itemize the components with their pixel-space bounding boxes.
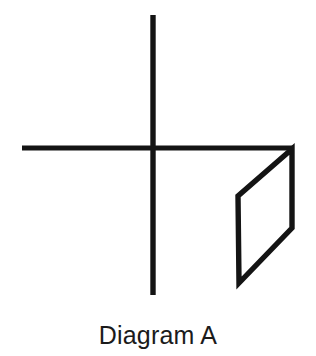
canvas-background <box>0 0 316 356</box>
diagram-figure: Diagram A <box>0 0 316 356</box>
diagram-drawing-canvas <box>0 0 316 356</box>
figure-caption: Diagram A <box>0 320 316 350</box>
